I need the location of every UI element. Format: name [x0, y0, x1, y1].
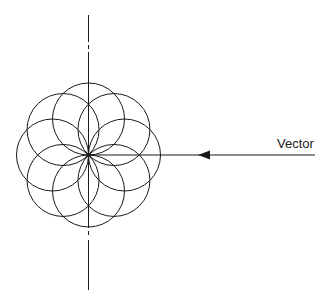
vector-label: Vector: [277, 136, 315, 151]
rosette-diagram: Vector: [0, 0, 330, 302]
vector-arrow: [89, 151, 316, 160]
center-point: [87, 153, 91, 157]
arrowhead-icon: [198, 151, 210, 160]
